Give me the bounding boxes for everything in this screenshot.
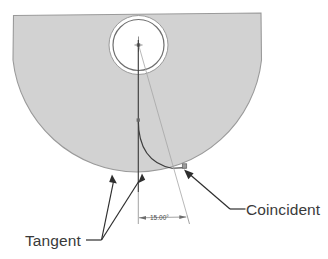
technical-drawing-svg: 15.00° Tangent Coincident [0,0,328,259]
drawing-canvas: 15.00° Tangent Coincident [0,0,328,259]
angle-arrow-left [139,216,146,220]
angle-dimension-value: 15.00° [150,214,169,221]
tangent-point-marker [137,118,140,121]
tangent-arrowhead-1 [109,175,117,184]
tangent-arrowhead-2 [138,174,145,184]
coincident-callout[interactable]: Coincident [184,170,321,218]
tangent-callout[interactable]: Tangent [25,174,145,249]
coincident-leader-line [191,175,231,209]
coincident-point-marker [182,164,186,168]
tangent-label: Tangent [25,232,81,249]
coincident-label: Coincident [246,201,321,218]
coincident-arrowhead [184,170,194,180]
angle-arrow-right [179,215,186,219]
angle-extension-right [187,215,190,224]
